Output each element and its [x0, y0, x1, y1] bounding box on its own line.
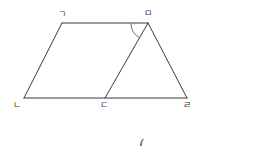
angle-arc-at-m — [131, 23, 139, 38]
edge-g-n — [24, 23, 62, 98]
vertex-label-n: ㄴ — [13, 101, 21, 110]
vertex-label-d: ㄷ — [100, 101, 108, 110]
geometry-figure-page: ㄱ ㅁ ㄴ ㄷ ㄹ ( ) — [0, 0, 265, 146]
answer-blank: ( ) — [0, 118, 265, 146]
edge-m-r — [148, 23, 187, 98]
edge-m-d — [105, 23, 148, 98]
vertex-label-g: ㄱ — [58, 10, 66, 19]
vertex-label-m: ㅁ — [144, 9, 152, 18]
vertex-label-r: ㄹ — [183, 101, 191, 110]
open-paren: ( — [139, 136, 145, 146]
